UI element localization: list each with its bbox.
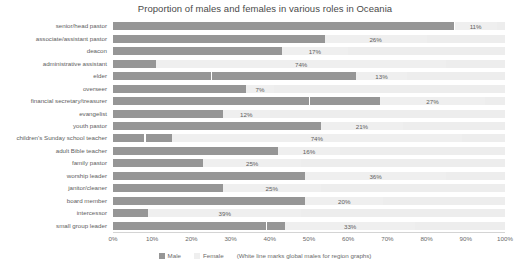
value-label: 74% <box>295 60 307 67</box>
x-axis-tick-label: 20% <box>185 235 197 242</box>
value-label: 74% <box>311 135 323 142</box>
bar-row: 13% <box>113 72 505 80</box>
legend-item-female: Female <box>194 252 224 259</box>
chart-title: Proportion of males and females in vario… <box>0 3 530 14</box>
bar-row: 33% <box>113 222 505 230</box>
bar-segment-male <box>113 47 282 55</box>
global-male-marker <box>211 71 212 81</box>
plot-area: 11%26%17%74%13%7%27%12%21%74%16%25%36%25… <box>113 20 505 232</box>
x-axis-tick-label: 0% <box>109 235 118 242</box>
category-label: small group leader <box>56 222 107 230</box>
legend-swatch-female-icon <box>194 253 200 259</box>
legend-label-male: Male <box>168 252 181 259</box>
bar-row: 74% <box>113 60 505 68</box>
category-label: board member <box>67 197 107 205</box>
category-label: administrative assistant <box>43 60 107 68</box>
bar-row: 26% <box>113 35 505 43</box>
value-label: 11% <box>470 23 482 30</box>
x-axis-tick-label: 40% <box>264 235 276 242</box>
category-label: children's Sunday school teacher <box>16 134 107 142</box>
global-male-marker <box>144 133 145 143</box>
bar-segment-male <box>113 85 246 93</box>
bar-row: 36% <box>113 172 505 180</box>
global-male-marker <box>266 221 267 231</box>
category-label: overseer <box>83 85 107 93</box>
bar-segment-male <box>113 97 380 105</box>
bar-row: 17% <box>113 47 505 55</box>
category-label: senior/head pastor <box>56 22 107 30</box>
bar-row: 11% <box>113 22 505 30</box>
x-axis-tick-label: 70% <box>381 235 393 242</box>
bar-row: 39% <box>113 209 505 217</box>
bar-segment-male <box>113 147 278 155</box>
bar-segment-male <box>113 110 223 118</box>
value-label: 25% <box>266 185 278 192</box>
bar-row: 20% <box>113 197 505 205</box>
value-label: 26% <box>369 35 381 42</box>
value-label: 17% <box>309 48 321 55</box>
bar-segment-male <box>113 35 325 43</box>
x-axis-line <box>113 232 505 233</box>
x-axis-tick-label: 50% <box>303 235 315 242</box>
bar-segment-male <box>113 172 305 180</box>
legend-item-male: Male <box>159 252 181 259</box>
value-label: 7% <box>256 85 265 92</box>
category-label: worship leader <box>67 172 107 180</box>
bar-segment-male <box>113 122 321 130</box>
value-label: 16% <box>303 147 315 154</box>
bar-segment-male <box>113 209 148 217</box>
bar-segment-male <box>113 60 156 68</box>
category-label: family pastor <box>72 159 107 167</box>
legend-label-female: Female <box>203 252 224 259</box>
value-label: 12% <box>240 110 252 117</box>
value-label: 27% <box>426 98 438 105</box>
bar-row: 74% <box>113 134 505 142</box>
category-label: deacon <box>87 47 107 55</box>
x-axis-tick-label: 80% <box>420 235 432 242</box>
value-label: 36% <box>369 172 381 179</box>
value-label: 20% <box>338 197 350 204</box>
category-label: adult Bible teacher <box>56 147 107 155</box>
bar-segment-male <box>113 222 285 230</box>
bar-row: 12% <box>113 110 505 118</box>
category-label: intercessor <box>77 209 107 217</box>
value-label: 33% <box>344 222 356 229</box>
x-axis-tick-label: 30% <box>224 235 236 242</box>
value-label: 21% <box>356 123 368 130</box>
value-label: 39% <box>219 210 231 217</box>
bar-row: 25% <box>113 159 505 167</box>
bar-row: 7% <box>113 85 505 93</box>
category-label: youth pastor <box>73 122 107 130</box>
x-axis-tick-label: 10% <box>146 235 158 242</box>
category-axis-labels: senior/head pastorassociate/assistant pa… <box>0 20 110 232</box>
bar-segment-male <box>113 159 203 167</box>
bar-row: 21% <box>113 122 505 130</box>
bar-segment-male <box>113 134 172 142</box>
bar-row: 16% <box>113 147 505 155</box>
chart-legend: Male Female (White line marks global mal… <box>0 252 530 259</box>
x-axis-tick-label: 60% <box>342 235 354 242</box>
category-label: janitor/cleaner <box>68 184 107 192</box>
bar-segment-male <box>113 72 356 80</box>
legend-swatch-male-icon <box>159 253 165 259</box>
category-label: associate/assistant pastor <box>36 35 107 43</box>
chart-container: Proportion of males and females in vario… <box>0 0 530 273</box>
category-label: elder <box>93 72 107 80</box>
bar-row: 25% <box>113 184 505 192</box>
x-axis-tick-label: 90% <box>460 235 472 242</box>
bar-segment-male <box>113 22 454 30</box>
value-label: 13% <box>375 73 387 80</box>
legend-note: (White line marks global males for regio… <box>237 252 372 259</box>
x-axis-tick-label: 100% <box>497 235 513 242</box>
category-label: financial secretary/treasurer <box>31 97 107 105</box>
value-label: 25% <box>246 160 258 167</box>
global-male-marker <box>454 21 455 31</box>
global-male-marker <box>309 96 310 106</box>
bar-segment-male <box>113 184 223 192</box>
bar-row: 27% <box>113 97 505 105</box>
category-label: evangelist <box>79 110 107 118</box>
bar-segment-male <box>113 197 305 205</box>
